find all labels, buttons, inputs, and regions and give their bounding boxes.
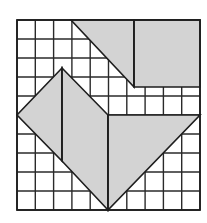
left-small-triangle	[17, 68, 62, 161]
top-right-square	[134, 20, 200, 87]
right-triangle	[108, 115, 200, 210]
middle-parallelogram	[62, 68, 108, 210]
grid-diagram	[0, 0, 207, 223]
